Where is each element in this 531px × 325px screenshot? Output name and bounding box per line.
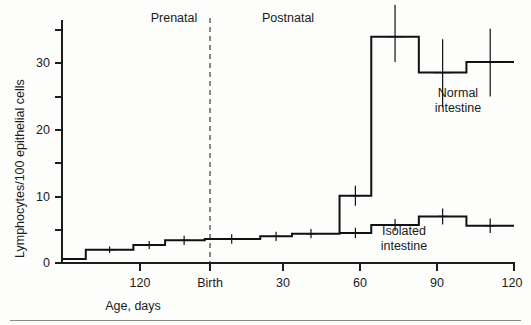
series-isolated-intestine [340,208,514,238]
annotation-prenatal: Prenatal [151,11,198,25]
series-step-line-normal [62,37,514,259]
x-tick-label-30: 30 [276,276,290,290]
error-bar [485,218,495,233]
chart-canvas: 0 10 20 30 Lymphocytes/100 epithelial ce… [0,0,531,325]
figure-container: 0 10 20 30 Lymphocytes/100 epithelial ce… [0,0,531,325]
error-bar [438,208,448,224]
x-tick-label-prenatal-120: 120 [130,276,151,290]
y-tick-label-10: 10 [36,190,50,204]
annotation-postnatal: Postnatal [262,11,314,25]
error-bar [271,232,281,241]
error-bar [306,229,316,238]
error-bar [105,246,115,253]
x-tick-label-60: 60 [353,276,367,290]
x-axis-ticks [140,263,514,271]
error-bar [350,228,360,239]
series-label-isolated-line1: Isolated [382,224,426,238]
y-tick-label-20: 20 [36,123,50,137]
series-label-isolated-line2: intestine [381,239,428,253]
error-bar [144,241,154,249]
y-axis-title: Lymphocytes/100 epithelial cells [13,79,27,258]
y-axis-ticks [55,30,62,263]
series-label-normal-line2: intestine [435,101,482,115]
series-label-normal-line1: Normal [438,86,478,100]
x-tick-label-90: 90 [430,276,444,290]
y-tick-label-30: 30 [36,56,50,70]
error-bar [179,236,189,245]
series-layer [62,5,514,259]
series-step-line-isolated [340,216,514,233]
y-tick-label-0: 0 [43,256,50,270]
x-axis-title: Age, days [105,299,161,313]
error-bar [227,234,237,243]
x-tick-label-birth: Birth [197,276,223,290]
x-tick-label-120: 120 [502,276,523,290]
error-bar [386,5,404,62]
series-normal-intestine [62,5,514,259]
error-bar [350,186,360,206]
